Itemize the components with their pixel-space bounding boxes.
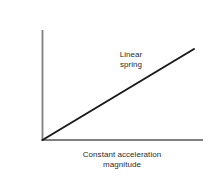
x-axis-label-line-2: magnitude xyxy=(42,160,202,170)
x-axis-label: Constant acceleration magnitude xyxy=(42,150,202,169)
linear-spring-chart: Position of seismic mass Constant accele… xyxy=(0,0,213,176)
series-annotation-line-2: spring xyxy=(106,60,156,70)
series-annotation-linear-spring: Linear spring xyxy=(106,50,156,69)
x-axis-label-line-1: Constant acceleration xyxy=(42,150,202,160)
series-annotation-line-1: Linear xyxy=(106,50,156,60)
